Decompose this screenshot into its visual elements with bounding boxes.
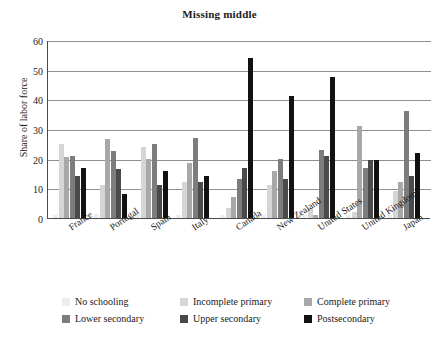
bar <box>283 179 288 218</box>
legend-item: No schooling <box>62 296 129 307</box>
bar <box>278 159 283 218</box>
bar <box>193 138 198 218</box>
bar <box>75 176 80 218</box>
bar <box>319 150 324 218</box>
bar <box>330 77 335 218</box>
legend-item: Upper secondary <box>180 313 261 324</box>
legend-item: Lower secondary <box>62 313 144 324</box>
bar-group <box>220 40 253 218</box>
bar <box>176 215 181 218</box>
bar <box>70 156 75 218</box>
bar <box>198 182 203 218</box>
bar <box>182 182 187 218</box>
bar <box>220 215 225 218</box>
bar <box>267 185 272 218</box>
bar <box>324 156 329 218</box>
bar <box>237 179 242 218</box>
legend-swatch <box>180 298 188 306</box>
bar <box>100 185 105 218</box>
bar <box>152 144 157 218</box>
legend-label: Incomplete primary <box>193 296 272 307</box>
bar <box>59 144 64 218</box>
bar-group <box>176 40 209 218</box>
bar-group <box>302 40 335 218</box>
bar-group <box>135 40 168 218</box>
bar <box>313 215 318 218</box>
legend-label: Postsecondary <box>317 313 375 324</box>
bar <box>105 139 110 218</box>
bar-group <box>261 40 294 218</box>
bar <box>116 169 121 218</box>
bar <box>64 157 69 218</box>
bar-group <box>346 40 379 218</box>
y-axis-tick: 40 <box>33 95 43 106</box>
bar <box>368 160 373 218</box>
chart-legend: No schoolingIncomplete primaryComplete p… <box>62 296 422 336</box>
bar <box>352 212 357 218</box>
y-axis-tick: 60 <box>33 36 43 47</box>
bar-group <box>94 40 127 218</box>
bar <box>272 171 277 218</box>
y-axis-tick: 50 <box>33 65 43 76</box>
legend-label: Lower secondary <box>75 313 144 324</box>
y-axis-tick: 10 <box>33 184 43 195</box>
legend-swatch <box>304 315 312 323</box>
legend-swatch <box>304 298 312 306</box>
bar <box>231 197 236 218</box>
legend-swatch <box>62 298 70 306</box>
plot-area: 0102030405060 <box>47 41 430 219</box>
bar <box>157 185 162 218</box>
bar <box>242 168 247 218</box>
y-axis-tick: 20 <box>33 154 43 165</box>
y-axis-label: Share of labor force <box>18 43 29 193</box>
bar <box>346 215 351 218</box>
y-axis-tick: 0 <box>38 214 43 225</box>
legend-label: Upper secondary <box>193 313 261 324</box>
legend-label: Complete primary <box>317 296 390 307</box>
bar <box>111 151 116 218</box>
legend-item: Postsecondary <box>304 313 375 324</box>
bar <box>289 96 294 218</box>
bar <box>363 168 368 218</box>
bar <box>204 176 209 218</box>
y-axis-tick: 30 <box>33 125 43 136</box>
bar <box>374 160 379 218</box>
bar <box>248 58 253 218</box>
bar <box>53 215 58 218</box>
bar-group <box>53 40 86 218</box>
chart-title: Missing middle <box>0 8 439 20</box>
legend-swatch <box>62 315 70 323</box>
bar <box>94 214 99 218</box>
legend-swatch <box>180 315 188 323</box>
bar <box>146 159 151 218</box>
legend-item: Complete primary <box>304 296 390 307</box>
bar <box>226 208 231 218</box>
legend-label: No schooling <box>75 296 129 307</box>
bar <box>187 163 192 218</box>
bar <box>415 153 420 218</box>
bar <box>141 147 146 218</box>
chart-root: Missing middle Share of labor force 0102… <box>0 0 439 342</box>
legend-item: Incomplete primary <box>180 296 272 307</box>
